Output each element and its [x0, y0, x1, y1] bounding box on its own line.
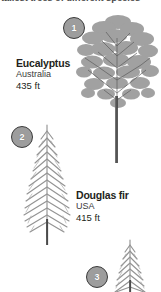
tree-marker-3[interactable]: 3: [86, 266, 108, 288]
page-heading-text: tallest trees of different species: [0, 0, 161, 5]
tree-country: USA: [76, 201, 129, 212]
broadleaf-tree-icon: [76, 8, 161, 163]
infographic-page: tallest trees of different species: [0, 0, 161, 292]
tree-name: Eucalyptus: [16, 57, 70, 69]
tree-height: 435 ft: [16, 80, 70, 92]
tree-label-eucalyptus: Eucalyptus Australia 435 ft: [16, 57, 70, 92]
tree-marker-2[interactable]: 2: [11, 126, 33, 148]
tree-label-douglas-fir: Douglas fir USA 415 ft: [76, 189, 129, 224]
conifer-tree-icon: [108, 236, 161, 292]
page-heading: tallest trees of different species: [0, 0, 161, 5]
tree-country: Australia: [16, 69, 70, 80]
tree-name: Douglas fir: [76, 189, 129, 201]
tree-height: 415 ft: [76, 212, 129, 224]
tree-marker-1[interactable]: 1: [63, 17, 85, 39]
